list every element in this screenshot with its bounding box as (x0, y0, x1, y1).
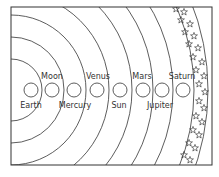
label-earth: Earth (20, 101, 41, 110)
mercury-circle (67, 83, 81, 97)
label-jupiter: Jupiter (146, 101, 174, 110)
earth-circle (24, 83, 38, 97)
mars-circle (136, 83, 150, 97)
label-saturn: Saturn (169, 72, 195, 81)
sun-circle (113, 83, 127, 97)
label-venus: Venus (86, 72, 110, 81)
label-mars: Mars (132, 72, 151, 81)
label-moon: Moon (41, 72, 63, 81)
saturn-circle (176, 83, 190, 97)
moon-circle (45, 83, 59, 97)
venus-circle (90, 83, 104, 97)
solar-system-diagram: Earth Moon Mercury Venus Sun Mars Jupite… (0, 0, 219, 177)
label-mercury: Mercury (59, 101, 92, 110)
celestial-bodies (24, 83, 190, 97)
label-sun: Sun (111, 101, 126, 110)
jupiter-circle (155, 83, 169, 97)
